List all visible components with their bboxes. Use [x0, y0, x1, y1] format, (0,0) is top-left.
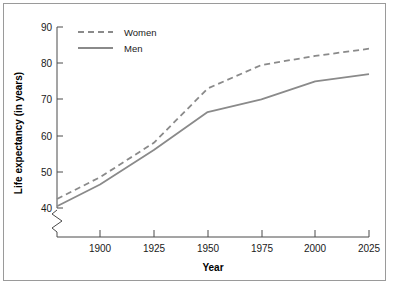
x-tick-label-2025: 2025 [358, 243, 381, 254]
x-tick-marks [100, 230, 369, 237]
x-tick-label-1975: 1975 [251, 243, 274, 254]
x-tick-label-1925: 1925 [143, 243, 166, 254]
x-tick-label-1950: 1950 [197, 243, 220, 254]
x-tick-label-2000: 2000 [304, 243, 327, 254]
chart-legend: Women Men [78, 27, 157, 54]
y-tick-labels: 90 80 70 60 50 40 [41, 22, 53, 214]
legend-label-men: Men [124, 43, 142, 54]
y-tick-label-40: 40 [41, 203, 53, 214]
chart-figure: 90 80 70 60 50 40 1900 1925 1950 1975 20… [0, 0, 401, 287]
y-tick-label-60: 60 [41, 131, 53, 142]
series-line-women [57, 49, 369, 199]
legend-label-women: Women [124, 27, 157, 38]
y-tick-label-50: 50 [41, 167, 53, 178]
y-axis-title: Life expectancy (in years) [13, 72, 24, 194]
x-tick-label-1900: 1900 [89, 243, 112, 254]
y-tick-label-80: 80 [41, 58, 53, 69]
line-chart: 90 80 70 60 50 40 1900 1925 1950 1975 20… [0, 0, 401, 287]
y-axis-break-icon [52, 210, 62, 232]
series-line-men [57, 74, 369, 206]
y-tick-label-90: 90 [41, 22, 53, 33]
y-tick-marks [57, 27, 63, 208]
x-tick-labels: 1900 1925 1950 1975 2000 2025 [89, 243, 381, 254]
y-tick-label-70: 70 [41, 94, 53, 105]
x-axis-title: Year [202, 262, 223, 273]
